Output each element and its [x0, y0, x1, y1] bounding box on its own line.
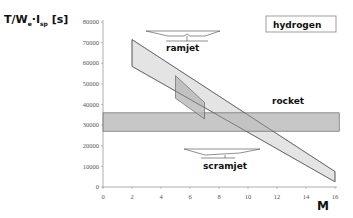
chart: T/We·Isp [s] 010000200003000040000500006… [0, 0, 353, 218]
x-axis-label: M [317, 199, 329, 213]
scramjet-label: scramjet [203, 161, 248, 171]
legend-label: hydrogen [273, 20, 321, 30]
x-ticks: 0246810121416 [101, 187, 339, 200]
y-tick-label: 70000 [83, 39, 99, 46]
y-axis-label: T/We·Isp [s] [4, 13, 68, 28]
x-tick-label: 12 [274, 193, 281, 200]
y-tick-label: 0 [96, 183, 99, 190]
x-tick-label: 14 [303, 193, 310, 200]
y-ticks: 0100002000030000400005000060000700008000… [83, 18, 103, 190]
x-tick-label: 0 [101, 193, 104, 200]
y-tick-label: 60000 [83, 59, 99, 66]
x-tick-label: 4 [159, 193, 163, 200]
y-tick-label: 50000 [83, 80, 99, 87]
rocket-label: rocket [272, 96, 305, 106]
y-tick-label: 80000 [83, 18, 99, 25]
x-tick-label: 16 [332, 193, 339, 200]
rocket-band [103, 113, 339, 132]
x-tick-label: 6 [188, 193, 192, 200]
y-tick-label: 20000 [83, 142, 99, 149]
x-tick-label: 10 [245, 193, 252, 200]
y-tick-label: 40000 [83, 101, 99, 108]
scramjet-inlet-icon [184, 149, 260, 158]
y-tick-label: 30000 [83, 121, 99, 128]
x-tick-label: 8 [217, 193, 220, 200]
x-tick-label: 2 [130, 193, 133, 200]
y-tick-label: 10000 [83, 163, 99, 170]
ramjet-label: ramjet [166, 43, 200, 53]
ramjet-inlet-icon [146, 31, 220, 41]
